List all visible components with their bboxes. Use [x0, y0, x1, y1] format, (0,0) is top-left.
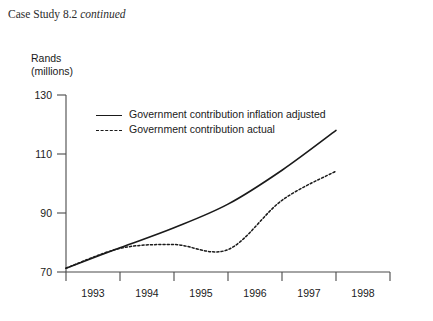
legend-item-actual: Government contribution actual: [96, 122, 326, 137]
line-chart-figure: Rands (millions) 130 110 90 70: [0, 0, 433, 321]
x-tick-label-1995: 1995: [174, 288, 228, 299]
x-tick-label-1996: 1996: [228, 288, 282, 299]
x-tick-label-1997: 1997: [282, 288, 336, 299]
y-tick-label-70: 70: [22, 267, 52, 278]
y-axis-ticks: [57, 95, 66, 272]
x-tick-label-1993: 1993: [66, 288, 120, 299]
plot-area: [0, 0, 433, 321]
legend-solid-line-icon: [96, 110, 122, 120]
x-tick-label-1994: 1994: [120, 288, 174, 299]
legend-label-inflation-adjusted: Government contribution inflation adjust…: [129, 109, 326, 120]
legend-label-actual: Government contribution actual: [129, 124, 275, 135]
y-tick-label-110: 110: [22, 149, 52, 160]
x-tick-label-1998: 1998: [336, 288, 390, 299]
legend-item-inflation-adjusted: Government contribution inflation adjust…: [96, 107, 326, 122]
x-axis-ticks: [66, 272, 390, 281]
y-tick-label-90: 90: [22, 208, 52, 219]
series-line-inflation-adjusted: [66, 130, 336, 268]
chart-legend: Government contribution inflation adjust…: [96, 107, 326, 137]
y-tick-label-130: 130: [22, 90, 52, 101]
legend-dashed-line-icon: [96, 125, 122, 135]
